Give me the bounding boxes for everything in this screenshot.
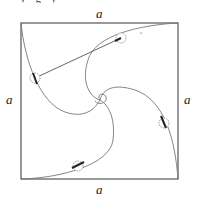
small-mark: a	[140, 30, 143, 35]
curve-from-top-left	[21, 23, 100, 114]
label-top-a: a	[96, 6, 103, 21]
line-of-sight	[35, 38, 121, 78]
label-right-a: a	[184, 92, 191, 107]
curve-from-bottom-right	[100, 87, 178, 179]
curve-from-top-right	[85, 23, 178, 100]
pursuit-curves	[21, 23, 178, 179]
curve-from-bottom-left	[21, 100, 114, 179]
bug-left	[30, 73, 40, 84]
label-bottom-a: a	[96, 182, 103, 197]
bug-right	[159, 116, 169, 128]
label-left-a: a	[6, 92, 13, 107]
pursuit-diagram: a a a a a	[0, 0, 198, 200]
bug-bottom	[72, 161, 84, 171]
